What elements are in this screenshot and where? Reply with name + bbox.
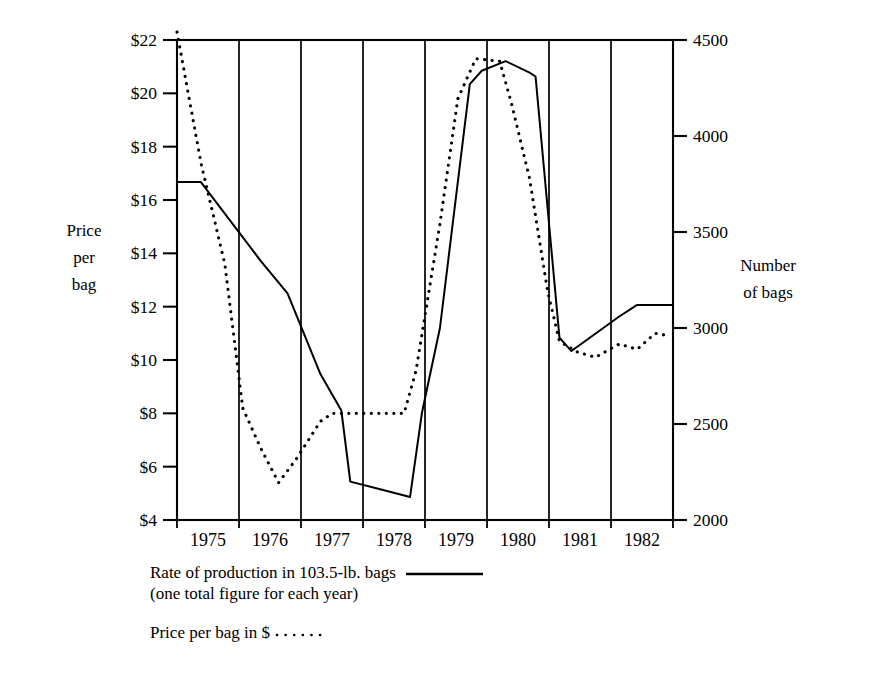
chart-text: Price	[67, 221, 102, 240]
chart-text: $14	[131, 243, 158, 263]
chart-text: $18	[131, 137, 158, 157]
chart-text: $20	[131, 83, 158, 103]
chart-figure: $4$6$8$10$12$14$16$18$20$22 200025003000…	[0, 0, 877, 676]
chart-text: 1981	[562, 530, 598, 550]
chart-canvas: $4$6$8$10$12$14$16$18$20$22 200025003000…	[0, 0, 877, 676]
chart-text: 1980	[500, 530, 536, 550]
chart-text: 1975	[190, 530, 226, 550]
chart-text: 1979	[438, 530, 474, 550]
legend-label-price: Price per bag in $	[150, 623, 270, 642]
legend-label-production: Rate of production in 103.5-lb. bags	[150, 563, 396, 582]
chart-text: 2500	[693, 414, 728, 434]
chart-text: 4500	[693, 30, 728, 50]
chart-text: 3500	[693, 222, 728, 242]
chart-text: 1977	[314, 530, 350, 550]
chart-text: $10	[131, 350, 158, 370]
chart-text: 2000	[693, 510, 728, 530]
legend-sublabel-production: (one total figure for each year)	[150, 584, 358, 603]
chart-text: $8	[140, 403, 158, 423]
chart-text: $16	[131, 190, 158, 210]
chart-text: Number	[740, 256, 796, 275]
chart-text: 3000	[693, 318, 728, 338]
chart-text: 1978	[376, 530, 412, 550]
chart-text: of bags	[743, 283, 793, 302]
chart-text: $6	[140, 457, 158, 477]
chart-text: 1982	[624, 530, 660, 550]
chart-text: bag	[72, 275, 97, 294]
chart-text: per	[73, 248, 95, 267]
chart-text: $12	[131, 297, 157, 317]
chart-text: 1976	[252, 530, 288, 550]
chart-text: 4000	[693, 126, 728, 146]
chart-text: $4	[140, 510, 158, 530]
chart-text: $22	[131, 30, 157, 50]
